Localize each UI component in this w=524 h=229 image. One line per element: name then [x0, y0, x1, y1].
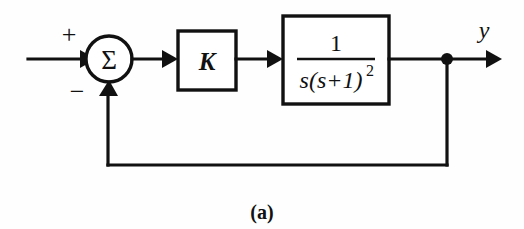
positive-sign-label: + — [62, 20, 77, 49]
transfer-function-denominator: s(s+1) — [300, 67, 363, 93]
feedback-path-wire — [99, 59, 447, 165]
output-signal-label: y — [477, 17, 490, 43]
figure-caption: (a) — [250, 201, 273, 224]
plant-block: 1 s(s+1) 2 — [283, 16, 389, 104]
gain-output-wire — [236, 50, 283, 68]
summing-junction: Σ — [86, 36, 132, 82]
transfer-function-denominator-exponent: 2 — [366, 62, 374, 79]
output-arrowhead — [486, 50, 502, 68]
diagram-canvas: Σ + − K 1 s(s+1) 2 — [0, 0, 524, 229]
negative-sign-label: − — [70, 77, 85, 106]
block-diagram-figure: Σ + − K 1 s(s+1) 2 — [0, 0, 524, 229]
plant-input-arrowhead — [267, 50, 283, 68]
gain-input-arrowhead — [162, 50, 178, 68]
gain-block-label: K — [198, 48, 218, 75]
transfer-function-numerator: 1 — [330, 30, 342, 56]
sigma-symbol: Σ — [101, 45, 117, 75]
gain-block: K — [178, 31, 236, 90]
error-signal-wire — [132, 50, 178, 68]
